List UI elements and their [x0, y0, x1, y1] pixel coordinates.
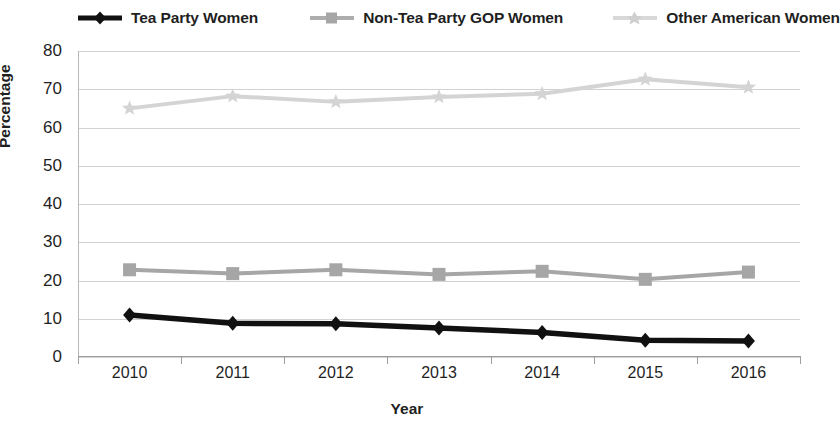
y-axis-tick-label: 10: [2, 309, 62, 329]
x-axis-tick-labels: 2010201120122013201420152016: [78, 364, 800, 390]
x-axis-tick: [697, 357, 698, 364]
x-axis-tick-label: 2011: [193, 364, 273, 382]
data-point: [535, 86, 550, 100]
series-non-tea-party-gop-women: [123, 263, 755, 286]
data-point: [639, 333, 652, 348]
data-point: [433, 320, 446, 335]
x-axis-tick-label: 2010: [90, 364, 170, 382]
x-axis-tick: [800, 357, 801, 364]
x-axis-tick: [491, 357, 492, 364]
y-axis-tick-label: 20: [2, 271, 62, 291]
x-axis-tick-label: 2016: [708, 364, 788, 382]
x-axis-title: Year: [0, 400, 814, 418]
data-point: [328, 94, 343, 108]
data-point: [225, 88, 240, 102]
legend-item-other-american-women[interactable]: Other American Women: [613, 9, 840, 27]
x-axis-tick: [594, 357, 595, 364]
data-point: [123, 307, 136, 322]
data-point: [536, 325, 549, 340]
x-axis-tick: [284, 357, 285, 364]
y-axis-tick-label: 30: [2, 232, 62, 252]
series-tea-party-women: [123, 307, 755, 348]
series-layer: [78, 51, 800, 357]
legend-swatch-star-icon: [613, 11, 657, 25]
legend-label: Non-Tea Party GOP Women: [363, 9, 563, 27]
series-other-american-women: [122, 71, 756, 115]
x-axis-tick-label: 2014: [502, 364, 582, 382]
plot-area: [78, 51, 800, 357]
data-point: [329, 263, 342, 276]
data-point: [226, 316, 239, 331]
x-axis-tick: [387, 357, 388, 364]
x-axis-tick: [78, 357, 79, 364]
x-axis-tick: [181, 357, 182, 364]
y-axis-tick-label: 60: [2, 118, 62, 138]
data-point: [742, 266, 755, 279]
legend-item-tea-party-women[interactable]: Tea Party Women: [78, 9, 258, 27]
y-axis-tick-label: 0: [2, 347, 62, 367]
x-axis-tick-label: 2012: [296, 364, 376, 382]
data-point: [433, 268, 446, 281]
data-point: [742, 333, 755, 348]
data-point: [638, 71, 653, 85]
legend-swatch-diamond-icon: [78, 11, 122, 25]
data-point: [123, 263, 136, 276]
y-axis-tick-label: 70: [2, 79, 62, 99]
data-point: [639, 273, 652, 286]
data-point: [329, 316, 342, 331]
legend-swatch-square-icon: [310, 11, 354, 25]
y-axis-tick-label: 80: [2, 41, 62, 61]
y-axis-tick-label: 40: [2, 194, 62, 214]
data-point: [536, 265, 549, 278]
data-point: [226, 267, 239, 280]
legend-label: Other American Women: [666, 9, 840, 27]
data-point: [741, 79, 756, 93]
chart-legend: Tea Party Women Non-Tea Party GOP Women …: [0, 4, 814, 32]
x-axis-tick-label: 2015: [605, 364, 685, 382]
legend-item-non-tea-party-gop-women[interactable]: Non-Tea Party GOP Women: [310, 9, 563, 27]
data-point: [122, 100, 137, 114]
x-axis-tick-label: 2013: [399, 364, 479, 382]
data-point: [431, 89, 446, 103]
gridline: [78, 357, 800, 358]
legend-label: Tea Party Women: [131, 9, 258, 27]
y-axis-tick-label: 50: [2, 156, 62, 176]
y-axis-tick-labels: 01020304050607080: [0, 51, 70, 357]
